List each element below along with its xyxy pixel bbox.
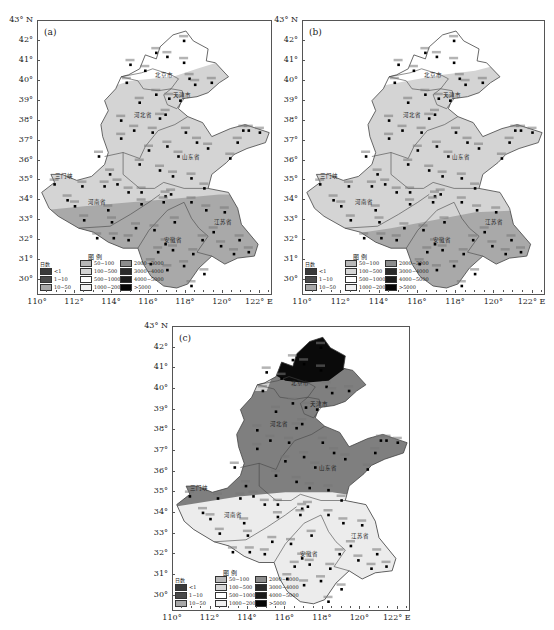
- x-tick-mark: [74, 290, 75, 293]
- x-tick-label: 114°: [364, 297, 394, 306]
- y-tick-label: 30°: [138, 590, 168, 599]
- x-tick-mark: [275, 606, 276, 608]
- x-tick-mark: [331, 606, 332, 608]
- place-label-beijing: 北京市: [291, 379, 309, 387]
- legend-swatch: [345, 260, 357, 267]
- x-tick-mark: [250, 290, 251, 292]
- y-tick-label: 36°: [268, 155, 298, 164]
- x-tick-mark: [350, 290, 351, 292]
- legend-swatch: [385, 268, 397, 275]
- legend-swatch: [215, 584, 227, 591]
- y-tick-label: 33°: [3, 214, 33, 223]
- x-tick-mark: [203, 290, 204, 292]
- x-tick-mark: [172, 606, 173, 609]
- x-tick-label: 116°: [133, 297, 163, 306]
- place-label-sanmenxia: 三门峡: [320, 172, 338, 180]
- x-tick-mark: [231, 290, 232, 292]
- x-tick-mark: [102, 290, 103, 292]
- x-tick-mark: [294, 606, 295, 608]
- legend-swatch: [215, 576, 227, 583]
- y-tick-label: 43° N: [138, 321, 168, 330]
- y-tick-mark: [37, 279, 40, 280]
- x-tick-mark: [200, 606, 201, 608]
- y-tick-label: 31°: [268, 254, 298, 263]
- legend-swatch: [80, 284, 92, 291]
- legend-swatch: [175, 584, 187, 591]
- y-tick-mark: [302, 259, 305, 260]
- x-tick-mark: [493, 290, 494, 293]
- y-tick-label: 40°: [3, 75, 33, 84]
- x-tick-label: 122° E: [244, 297, 274, 306]
- x-tick-mark: [191, 606, 192, 608]
- place-label-shandong: 山东省: [319, 464, 337, 472]
- place-label-anhui: 安徽省: [433, 236, 451, 244]
- legend-unit-label: 日数: [40, 261, 50, 267]
- legend-item: 4000~5000: [385, 276, 429, 283]
- place-label-beijing: 北京市: [424, 71, 442, 79]
- x-tick-label: 120°: [344, 613, 374, 622]
- y-tick-label: 34°: [138, 507, 168, 516]
- legend: 图 例日数<11~1010~5050~100100~500500~1000100…: [175, 570, 295, 608]
- map-frame: 北京市天津市河北省山东省河南省安徽省江苏省三门峡(c)图 例日数<11~1010…: [172, 326, 410, 611]
- legend-swatch: [80, 260, 92, 267]
- place-label-beijing: 北京市: [155, 71, 173, 79]
- x-tick-mark: [397, 606, 398, 609]
- y-tick-label: 42°: [138, 342, 168, 351]
- legend-swatch: [255, 592, 267, 599]
- legend-item: 3000~4000: [255, 584, 299, 591]
- legend-item: >5000: [255, 600, 286, 607]
- place-label-shandong: 山东省: [182, 153, 200, 161]
- legend-swatch: [385, 260, 397, 267]
- x-tick-mark: [120, 290, 121, 292]
- y-tick-mark: [37, 199, 40, 200]
- x-tick-mark: [210, 606, 211, 609]
- legend: 图 例日数<11~1010~5050~100100~500500~1000100…: [305, 254, 425, 292]
- x-tick-mark: [407, 290, 408, 292]
- y-tick-label: 41°: [268, 55, 298, 64]
- x-tick-mark: [139, 290, 140, 292]
- legend-swatch: [305, 268, 317, 275]
- place-label-henan: 河南省: [355, 198, 373, 206]
- legend-item: 4000~5000: [255, 592, 299, 599]
- x-tick-mark: [522, 290, 523, 292]
- x-tick-label: 114°: [96, 297, 126, 306]
- x-tick-mark: [83, 290, 84, 292]
- legend-swatch: [215, 592, 227, 599]
- y-tick-mark: [37, 140, 40, 141]
- legend-item: 1~10: [40, 276, 68, 283]
- x-tick-mark: [148, 290, 149, 293]
- x-tick-label: 116°: [402, 297, 432, 306]
- y-tick-label: 43° N: [268, 15, 298, 24]
- x-tick-mark: [321, 290, 322, 292]
- x-tick-label: 118°: [440, 297, 470, 306]
- x-tick-mark: [313, 606, 314, 608]
- y-tick-label: 30°: [268, 274, 298, 283]
- legend-item: 50~100: [345, 260, 379, 267]
- x-tick-label: 112°: [59, 297, 89, 306]
- x-tick-mark: [185, 290, 186, 293]
- legend-item: 100~500: [215, 584, 252, 591]
- y-tick-mark: [37, 179, 40, 180]
- x-tick-mark: [259, 290, 260, 293]
- place-label-hebei: 河北省: [403, 111, 421, 119]
- place-label-sanmenxia: 三门峡: [190, 484, 208, 492]
- x-tick-label: 110°: [287, 297, 317, 306]
- legend-swatch: [120, 268, 132, 275]
- x-tick-mark: [465, 290, 466, 292]
- y-tick-mark: [302, 120, 305, 121]
- x-tick-mark: [37, 290, 38, 293]
- x-tick-mark: [388, 290, 389, 292]
- legend-item: 500~1000: [80, 276, 120, 283]
- y-tick-mark: [302, 199, 305, 200]
- y-tick-mark: [172, 388, 175, 389]
- y-tick-mark: [302, 40, 305, 41]
- y-tick-label: 32°: [138, 548, 168, 557]
- x-tick-mark: [46, 290, 47, 292]
- y-tick-label: 30°: [3, 274, 33, 283]
- x-tick-mark: [93, 290, 94, 292]
- x-tick-mark: [194, 290, 195, 292]
- y-tick-mark: [172, 450, 175, 451]
- y-tick-label: 35°: [3, 174, 33, 183]
- legend-item: >5000: [385, 284, 416, 291]
- y-tick-mark: [172, 512, 175, 513]
